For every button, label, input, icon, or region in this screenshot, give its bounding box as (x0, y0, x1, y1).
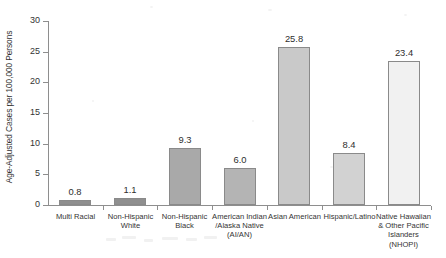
bar-value-label: 8.4 (321, 140, 377, 150)
x-axis-line (48, 205, 431, 206)
y-tick-label: 15 (18, 108, 40, 117)
bar (278, 47, 310, 205)
x-tick-mark (267, 206, 268, 210)
bar-chart-figure: Age-Adjusted Cases per 100,000 Persons 0… (0, 0, 446, 258)
scan-speck (404, 14, 407, 16)
bar (388, 61, 420, 205)
x-tick-mark (376, 206, 377, 210)
y-tick-label-text: 20 (18, 77, 40, 86)
scan-speck (9, 120, 12, 123)
y-tick-label-text: 30 (18, 16, 40, 25)
y-tick-label-text: 5 (18, 169, 40, 178)
x-category-label-line: /Alaska Native (212, 221, 267, 230)
x-category-label-line: & Other Pacific (376, 221, 431, 230)
x-tick-mark (431, 206, 432, 210)
x-category-label-line: Asian American (267, 212, 322, 221)
y-tick-label-text: 0 (18, 200, 40, 209)
x-category-label: Native Hawaiian& Other PacificIslanders(… (376, 212, 431, 249)
y-tick-label: 25 (18, 47, 40, 56)
x-tick-mark (157, 206, 158, 210)
x-category-label-line: Non-Hispanic (103, 212, 158, 221)
y-tick-label-text: 15 (18, 108, 40, 117)
y-tick-label-text: 10 (18, 139, 40, 148)
y-tick-mark (43, 113, 48, 114)
bar (114, 198, 146, 205)
bar-value-label: 0.8 (47, 187, 103, 197)
bar-value-label: 9.3 (157, 135, 213, 145)
x-category-label-line: Native Hawaiian (376, 212, 431, 221)
bar (169, 148, 201, 205)
y-tick-mark (43, 205, 48, 206)
y-tick-mark (43, 174, 48, 175)
bar (333, 153, 365, 205)
y-tick-label-text: 25 (18, 47, 40, 56)
scan-speck (330, 166, 333, 168)
x-category-label-line: Islanders (376, 230, 431, 239)
page-edge-smudge (104, 236, 224, 250)
x-category-label: Asian American (267, 212, 322, 221)
x-tick-mark (322, 206, 323, 210)
bar (224, 168, 256, 205)
x-category-label: Hispanic/Latino (322, 212, 377, 221)
x-category-label: Multi Racial (48, 212, 103, 221)
x-category-label-line: Non-Hispanic (157, 212, 212, 221)
y-tick-mark (43, 144, 48, 145)
bar-value-label: 6.0 (212, 155, 268, 165)
y-tick-mark (43, 21, 48, 22)
x-category-label: Non-HispanicWhite (103, 212, 158, 230)
x-category-label-line: Multi Racial (48, 212, 103, 221)
bar-value-label: 1.1 (102, 185, 158, 195)
x-category-label-line: Black (157, 221, 212, 230)
bar-value-label: 23.4 (376, 48, 432, 58)
scan-speck (150, 6, 153, 8)
scan-speck (92, 100, 94, 102)
x-category-label-line: (NHOPI) (376, 240, 431, 249)
x-tick-mark (103, 206, 104, 210)
y-tick-label: 20 (18, 77, 40, 86)
scan-speck (268, 9, 272, 11)
y-axis-title: Age-Adjusted Cases per 100,000 Persons (2, 12, 16, 202)
y-tick-label: 5 (18, 169, 40, 178)
x-category-label-line: American Indian (212, 212, 267, 221)
bar (59, 200, 91, 205)
scan-speck (252, 120, 254, 122)
y-tick-mark (43, 82, 48, 83)
bar-value-label: 25.8 (266, 34, 322, 44)
y-axis-line (48, 21, 49, 206)
x-category-label: Non-HispanicBlack (157, 212, 212, 230)
x-category-label-line: Hispanic/Latino (322, 212, 377, 221)
y-tick-label: 30 (18, 16, 40, 25)
x-tick-mark (212, 206, 213, 210)
y-tick-mark (43, 52, 48, 53)
y-tick-label: 10 (18, 139, 40, 148)
x-category-label-line: White (103, 221, 158, 230)
y-tick-label: 0 (18, 200, 40, 209)
